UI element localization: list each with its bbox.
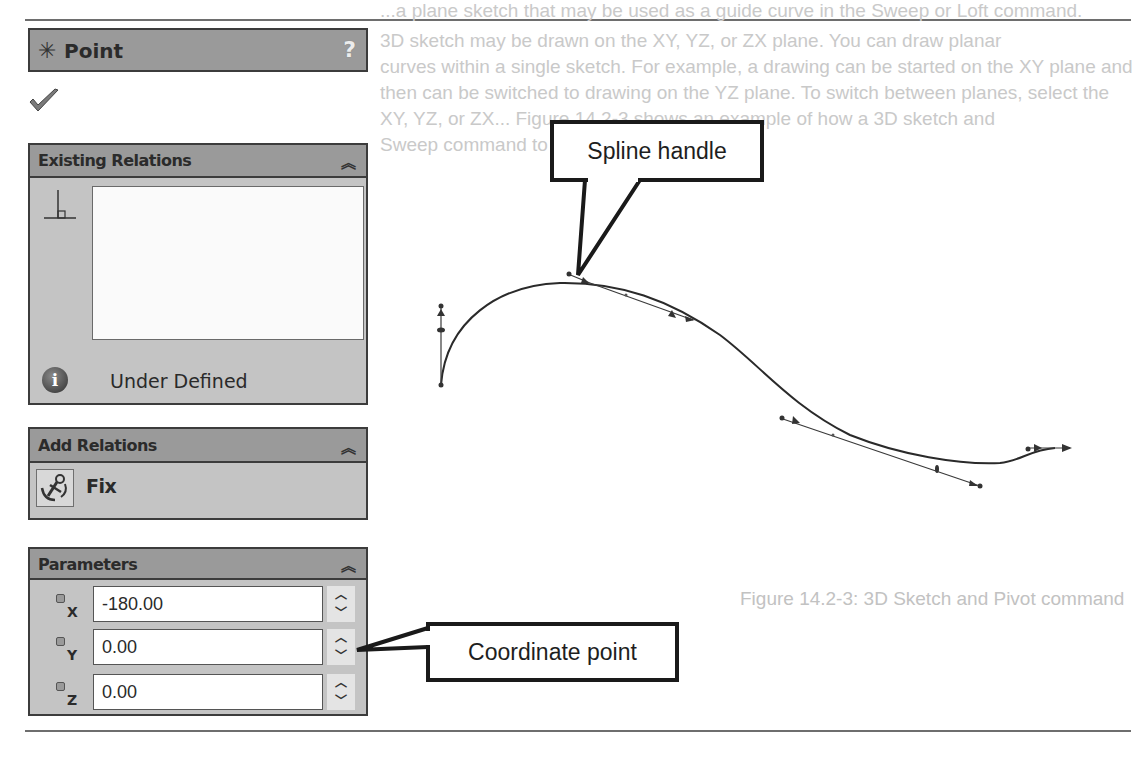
spline-leader-joint <box>588 176 638 182</box>
spline-curve[interactable] <box>441 283 1055 463</box>
spline-handle-leader <box>578 180 640 275</box>
coordinate-point-callout: Coordinate point <box>426 622 679 682</box>
spline-handle-callout: Spline handle <box>550 120 764 182</box>
coordinate-point-leader <box>357 628 428 650</box>
coordinate-leader-joint <box>426 631 432 645</box>
